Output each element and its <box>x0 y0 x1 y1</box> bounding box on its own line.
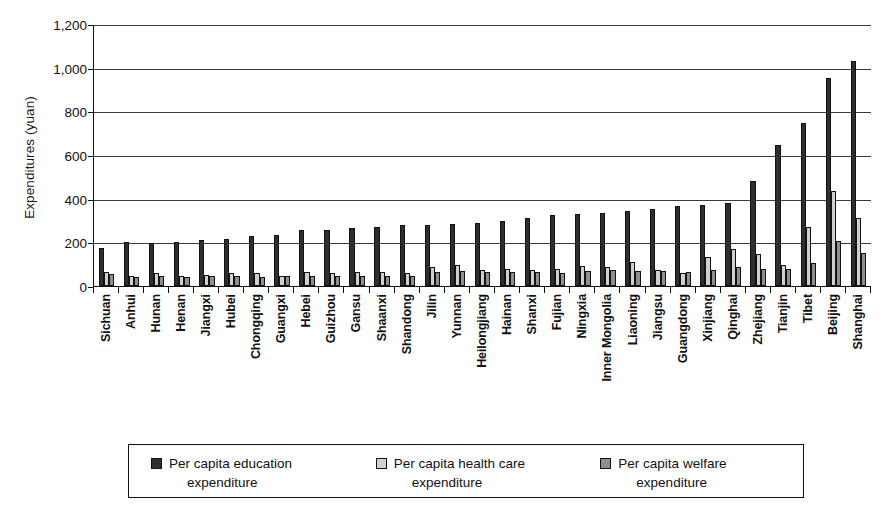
legend-label: Per capita welfareexpenditure <box>618 454 726 492</box>
x-axis-label-cell: Beijing <box>821 294 846 414</box>
x-axis-tick-label: Guizhou <box>324 294 338 343</box>
bar <box>460 271 465 286</box>
bar-group <box>771 25 796 286</box>
bar-group <box>269 25 294 286</box>
x-axis-tick-label: Jilin <box>425 294 439 319</box>
x-axis-tick-label: Shanghai <box>851 294 865 349</box>
x-axis-tick-label: Hainan <box>500 294 514 335</box>
x-axis-label-cell: Fujian <box>545 294 570 414</box>
x-axis-tick-label: Liaoning <box>626 294 640 345</box>
bar <box>385 276 390 286</box>
series-2-swatch <box>600 458 611 469</box>
legend-label-line1: Per capita health care <box>394 456 525 471</box>
bar-group <box>219 25 244 286</box>
bar <box>360 276 365 286</box>
x-axis-tick-label: Heilongjiang <box>475 294 489 368</box>
x-axis-label-cell: Guangdong <box>670 294 695 414</box>
legend-label-line2: expenditure <box>394 473 525 492</box>
bar <box>109 274 114 286</box>
bar-group <box>94 25 119 286</box>
legend-item: Per capita educationexpenditure <box>129 454 354 492</box>
x-axis-tick-label: Yunnan <box>450 294 464 339</box>
x-axis-label-cell: Henan <box>168 294 193 414</box>
x-axis-tick-label: Qinghai <box>726 294 740 340</box>
bar <box>861 253 866 286</box>
bar-group <box>520 25 545 286</box>
x-axis-label-cell: Hebei <box>294 294 319 414</box>
bar-group <box>595 25 620 286</box>
bar-group <box>144 25 169 286</box>
bar <box>209 276 214 286</box>
x-axis-label-cell: Ningxia <box>570 294 595 414</box>
x-tick-mark <box>745 287 770 293</box>
bar-group <box>119 25 144 286</box>
x-axis-tick-label: Shandong <box>400 294 414 354</box>
x-axis-labels: SichuanAnhuiHunanHenanJiangxiHubeiChongq… <box>93 294 871 414</box>
x-axis-tick-label: Jiangxi <box>199 294 213 336</box>
x-axis-label-cell: Guizhou <box>319 294 344 414</box>
x-axis-tickmarks <box>93 287 871 293</box>
x-axis-tick-label: Zhejiang <box>751 294 765 345</box>
x-tick-mark <box>670 287 695 293</box>
bar <box>585 271 590 286</box>
chart-legend: Per capita educationexpenditurePer capit… <box>128 444 804 498</box>
x-tick-mark <box>193 287 218 293</box>
x-axis-label-cell: Sichuan <box>93 294 118 414</box>
bar <box>610 270 615 286</box>
legend-item: Per capita health careexpenditure <box>354 454 579 492</box>
plot-area: 02004006008001,0001,200 <box>93 25 871 287</box>
bar <box>635 271 640 286</box>
x-tick-mark <box>469 287 494 293</box>
x-tick-mark <box>821 287 846 293</box>
bar-group <box>821 25 846 286</box>
bar-group <box>320 25 345 286</box>
bar-group <box>470 25 495 286</box>
x-axis-label-cell: Heilongjiang <box>469 294 494 414</box>
x-axis-tick-label: Shanxi <box>525 294 539 334</box>
x-axis-label-cell: Yunnan <box>444 294 469 414</box>
chart-root: Expenditures (yuan) 02004006008001,0001,… <box>0 0 887 513</box>
x-axis-label-cell: Anhui <box>118 294 143 414</box>
bar-group <box>746 25 771 286</box>
x-tick-mark <box>419 287 444 293</box>
x-axis-tick-label: Guangdong <box>676 294 690 363</box>
x-tick-mark <box>545 287 570 293</box>
bar-group <box>570 25 595 286</box>
bar <box>234 276 239 286</box>
bar-group <box>345 25 370 286</box>
y-axis-tick-label: 1,000 <box>53 61 94 76</box>
x-tick-mark <box>394 287 419 293</box>
x-tick-mark <box>695 287 720 293</box>
x-axis-tick-label: Henan <box>174 294 188 332</box>
x-tick-mark <box>218 287 243 293</box>
x-axis-label-cell: Chongqing <box>244 294 269 414</box>
x-axis-label-cell: Shaanxi <box>369 294 394 414</box>
x-axis-label-cell: Jilin <box>419 294 444 414</box>
x-tick-mark <box>444 287 469 293</box>
bar <box>435 272 440 286</box>
bar-group <box>244 25 269 286</box>
x-axis-label-cell: Inner Mongolia <box>595 294 620 414</box>
x-axis-tick-label: Ningxia <box>575 294 589 338</box>
x-tick-mark <box>344 287 369 293</box>
x-axis-label-cell: Gansu <box>344 294 369 414</box>
bar <box>410 276 415 286</box>
bar <box>285 276 290 286</box>
bar-group <box>370 25 395 286</box>
x-tick-mark <box>269 287 294 293</box>
bar-group <box>445 25 470 286</box>
x-axis-label-cell: Jiangxi <box>193 294 218 414</box>
x-axis-label-cell: Tianjin <box>771 294 796 414</box>
bar <box>335 276 340 286</box>
x-tick-mark <box>168 287 193 293</box>
x-axis-label-cell: Xinjiang <box>695 294 720 414</box>
x-tick-mark <box>495 287 520 293</box>
series-0-swatch <box>151 458 162 469</box>
bar-group <box>169 25 194 286</box>
bar-group <box>194 25 219 286</box>
bar <box>661 271 666 286</box>
bar-group <box>495 25 520 286</box>
x-axis-label-cell: Hunan <box>143 294 168 414</box>
bar <box>836 241 841 286</box>
x-axis-tick-label: Hunan <box>149 294 163 332</box>
